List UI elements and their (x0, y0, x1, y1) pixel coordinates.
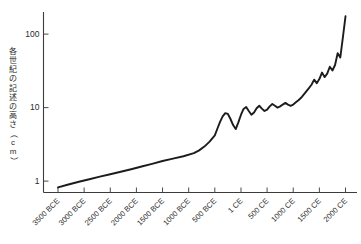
y-tick-labels: 100101 (25, 29, 39, 186)
y-axis-label-char: 各 (9, 46, 17, 56)
x-tick-label: 1500 CE (296, 197, 323, 224)
x-tick-label: 2000 BCE (109, 197, 140, 228)
y-tick-label: 100 (25, 29, 39, 39)
line-chart: 100101 3500 BCE3000 BCE2500 BCE2000 BCE1… (0, 0, 361, 244)
chart-container: 100101 3500 BCE3000 BCE2500 BCE2000 BCE1… (0, 0, 361, 244)
y-axis-label-char: 世 (9, 55, 17, 65)
y-axis-label-char: （ (9, 130, 18, 138)
y-axis-label-char: さ (9, 120, 17, 129)
y-axis-label: 各世紀の記述の高さ（cm） (9, 46, 18, 165)
y-axis-label-char: の (9, 74, 17, 83)
y-tick-label: 10 (30, 102, 40, 112)
y-axis-label-char: の (9, 102, 17, 111)
y-tick-marks (44, 34, 49, 181)
x-tick-marks (58, 188, 346, 193)
x-tick-label: 3500 BCE (31, 197, 62, 228)
x-tick-label: 500 CE (246, 197, 270, 221)
x-tick-label: 2000 CE (322, 197, 349, 224)
x-tick-label: 1 CE (226, 197, 244, 215)
y-axis-label-char: ） (9, 157, 18, 165)
y-axis-label-char: 記 (9, 83, 17, 93)
y-axis-label-char: m (10, 147, 17, 156)
data-series-line (58, 16, 346, 187)
x-tick-label: 1500 BCE (135, 197, 166, 228)
x-tick-labels: 3500 BCE3000 BCE2500 BCE2000 BCE1500 BCE… (31, 197, 349, 228)
x-tick-label: 2500 BCE (83, 197, 114, 228)
y-axis-label-char: 高 (9, 110, 17, 120)
x-tick-label: 1000 CE (269, 197, 296, 224)
y-axis-label-char: c (11, 138, 15, 147)
y-axis-label-char: 紀 (9, 64, 17, 74)
x-tick-label: 3000 BCE (57, 197, 88, 228)
x-tick-label: 500 BCE (190, 197, 218, 225)
x-tick-label: 1000 BCE (161, 197, 192, 228)
y-tick-label: 1 (35, 176, 40, 186)
y-axis-label-char: 述 (9, 92, 17, 102)
